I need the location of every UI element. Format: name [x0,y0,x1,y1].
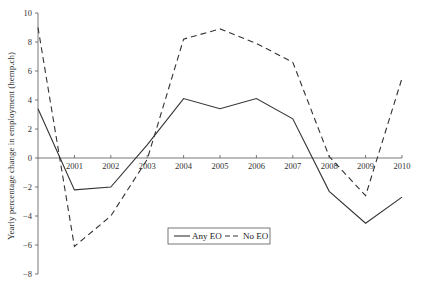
x-tick-label: 2004 [175,161,193,171]
chart-series [38,28,402,247]
y-axis: 1086420−2−4−6−8 [23,8,38,279]
y-tick-label: 0 [28,153,32,163]
y-tick-label: −2 [23,182,32,192]
x-tick-label: 2009 [357,161,374,171]
y-tick-label: 4 [28,95,33,105]
line-chart: 1086420−2−4−6−8 200120022003200420052006… [0,0,422,288]
legend: Any EO No EO [168,228,270,244]
x-tick-label: 2001 [66,161,83,171]
y-tick-label: 8 [28,37,32,47]
legend-any-eo: Any EO [192,231,222,241]
y-tick-label: 10 [24,8,33,18]
y-tick-label: 2 [28,124,32,134]
x-tick-label: 2002 [102,161,119,171]
x-tick-label: 2007 [284,161,301,171]
x-axis: 2001200220032004200520062007200820092010 [38,155,411,171]
legend-no-eo: No EO [243,231,269,241]
x-tick-label: 2005 [212,161,229,171]
x-tick-label: 2006 [248,161,265,171]
y-tick-label: −4 [23,211,33,221]
x-tick-label: 2008 [321,161,338,171]
y-tick-label: 6 [28,66,32,76]
y-tick-label: −8 [23,269,32,279]
x-tick-label: 2010 [394,161,411,171]
y-tick-label: −6 [23,240,32,250]
y-axis-title: Yearly percentage change in employment (… [6,52,16,240]
series-no-eo-line [38,28,402,247]
